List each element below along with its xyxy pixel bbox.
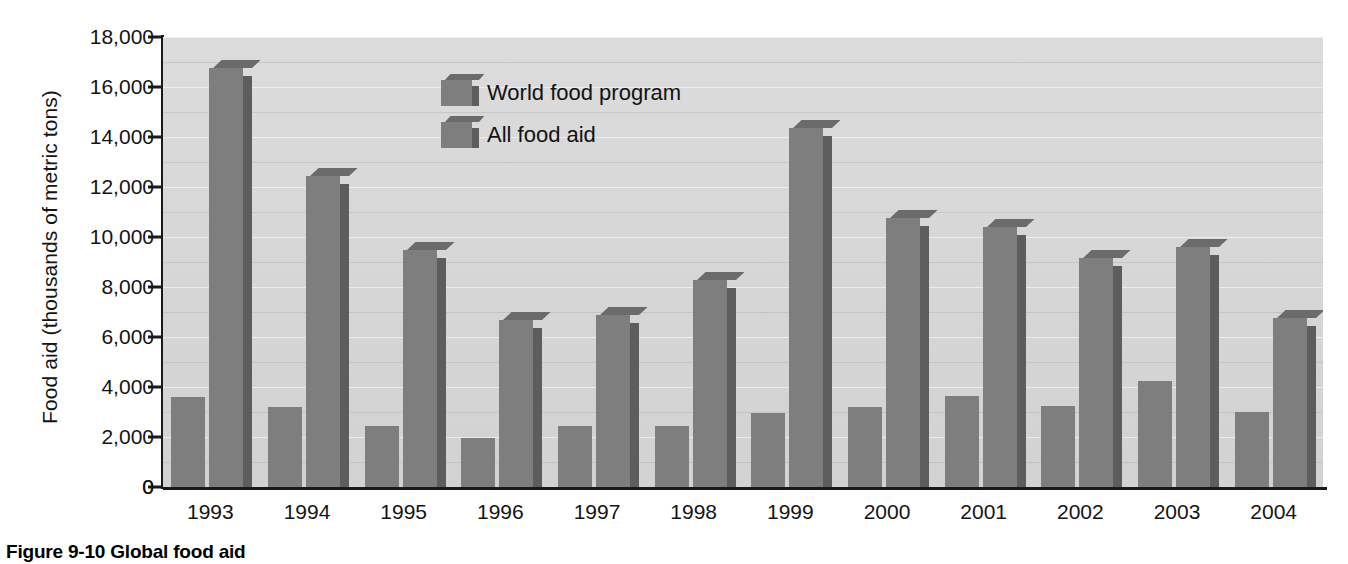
y-tick-mark-12000: [148, 186, 163, 189]
bar-group-2000: [840, 37, 937, 487]
bar-2000-world-food-program[interactable]: [848, 407, 882, 487]
y-tick-mark-18000: [148, 36, 163, 39]
y-tick-label-4000: 4,000: [101, 375, 154, 399]
bar-1996-world-food-program[interactable]: [461, 438, 495, 487]
chart-legend: World food program All food aid: [441, 75, 681, 159]
y-tick-label-6000: 6,000: [101, 325, 154, 349]
bar-top-face: [407, 242, 455, 250]
bar-side-face: [437, 258, 446, 488]
bar-1999-world-food-program[interactable]: [751, 413, 785, 487]
bar-2001-all-food-aid[interactable]: [983, 227, 1017, 487]
legend-item-all-food-aid[interactable]: All food aid: [441, 117, 681, 153]
bar-group-2002: [1033, 37, 1130, 487]
x-tick-label-1993: 1993: [187, 500, 234, 524]
y-tick-label-10000: 10,000: [90, 225, 154, 249]
bar-top-face: [213, 60, 261, 68]
y-tick-mark-2000: [148, 436, 163, 439]
bar-1996-all-food-aid[interactable]: [499, 320, 533, 488]
bar-1997-all-food-aid[interactable]: [596, 315, 630, 488]
bar-2004-world-food-program[interactable]: [1235, 412, 1269, 487]
bar-top-face: [890, 210, 938, 218]
y-tick-label-16000: 16,000: [90, 75, 154, 99]
bar-group-1993: [163, 37, 260, 487]
bar-1994-world-food-program[interactable]: [268, 407, 302, 487]
x-tick-label-1997: 1997: [574, 500, 621, 524]
bar-top-face: [1083, 250, 1131, 258]
figure-caption: Figure 9-10 Global food aid: [6, 541, 246, 563]
bar-group-2004: [1226, 37, 1323, 487]
bar-top-face: [1180, 239, 1228, 247]
y-tick-label-2000: 2,000: [101, 425, 154, 449]
x-tick-label-1995: 1995: [380, 500, 427, 524]
plot-area: World food program All food aid: [163, 37, 1323, 487]
x-tick-label-2000: 2000: [864, 500, 911, 524]
bar-top-face: [697, 272, 745, 280]
bar-side-face: [920, 226, 929, 487]
y-tick-label-12000: 12,000: [90, 175, 154, 199]
x-tick-label-1996: 1996: [477, 500, 524, 524]
bar-2000-all-food-aid[interactable]: [886, 218, 920, 487]
legend-swatch-all-food-aid: [441, 122, 472, 148]
bar-side-face: [630, 323, 639, 488]
y-tick-mark-10000: [148, 236, 163, 239]
bar-1998-world-food-program[interactable]: [655, 426, 689, 487]
bar-2002-all-food-aid[interactable]: [1079, 258, 1113, 487]
x-tick-label-2001: 2001: [960, 500, 1007, 524]
bar-1993-all-food-aid[interactable]: [209, 68, 243, 487]
bar-top-face: [310, 168, 358, 176]
bar-1998-all-food-aid[interactable]: [693, 280, 727, 488]
legend-label-world-food-program: World food program: [487, 80, 681, 106]
bar-1993-world-food-program[interactable]: [171, 397, 205, 487]
bar-side-face: [1113, 266, 1122, 487]
figure-container: Food aid (thousands of metric tons) 02,0…: [0, 0, 1348, 564]
y-tick-label-18000: 18,000: [90, 25, 154, 49]
bar-side-face: [1017, 235, 1026, 487]
bar-group-1995: [356, 37, 453, 487]
y-tick-mark-14000: [148, 136, 163, 139]
plot-inner: [163, 37, 1323, 487]
bar-side-face: [823, 136, 832, 487]
bar-2001-world-food-program[interactable]: [945, 396, 979, 487]
y-tick-mark-16000: [148, 86, 163, 89]
bar-1995-world-food-program[interactable]: [365, 426, 399, 487]
bar-1994-all-food-aid[interactable]: [306, 176, 340, 487]
bar-top-face: [987, 219, 1035, 227]
legend-label-all-food-aid: All food aid: [487, 122, 596, 148]
bar-2002-world-food-program[interactable]: [1041, 406, 1075, 487]
bar-1995-all-food-aid[interactable]: [403, 250, 437, 488]
bar-top-face: [503, 312, 551, 320]
x-tick-label-1994: 1994: [284, 500, 331, 524]
bar-side-face: [243, 76, 252, 487]
bar-top-face: [1277, 310, 1323, 318]
x-tick-label-1998: 1998: [670, 500, 717, 524]
legend-swatch-world-food-program: [441, 80, 472, 106]
bar-group-1994: [260, 37, 357, 487]
y-tick-label-14000: 14,000: [90, 125, 154, 149]
bar-1997-world-food-program[interactable]: [558, 426, 592, 487]
bar-2003-all-food-aid[interactable]: [1176, 247, 1210, 487]
y-axis-title: Food aid (thousands of metric tons): [38, 47, 62, 467]
bar-top-face: [600, 307, 648, 315]
y-tick-mark-8000: [148, 286, 163, 289]
bar-2003-world-food-program[interactable]: [1138, 381, 1172, 487]
bar-side-face: [340, 184, 349, 487]
x-tick-label-2004: 2004: [1250, 500, 1297, 524]
y-tick-mark-6000: [148, 336, 163, 339]
bar-side-face: [1307, 326, 1316, 487]
bar-2004-all-food-aid[interactable]: [1273, 318, 1307, 487]
y-tick-label-0: 0: [62, 475, 154, 499]
x-tick-label-1999: 1999: [767, 500, 814, 524]
x-tick-label-2002: 2002: [1057, 500, 1104, 524]
bar-side-face: [1210, 255, 1219, 487]
bar-1999-all-food-aid[interactable]: [789, 128, 823, 487]
bar-side-face: [533, 328, 542, 488]
bar-side-face: [727, 288, 736, 488]
legend-item-world-food-program[interactable]: World food program: [441, 75, 681, 111]
y-tick-label-8000: 8,000: [101, 275, 154, 299]
bar-group-1999: [743, 37, 840, 487]
bar-top-face: [793, 120, 841, 128]
x-axis-line: [163, 487, 1327, 490]
x-tick-label-2003: 2003: [1154, 500, 1201, 524]
y-tick-mark-4000: [148, 386, 163, 389]
bar-group-2003: [1130, 37, 1227, 487]
